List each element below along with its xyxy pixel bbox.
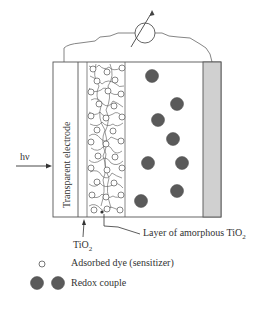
circuit-wire xyxy=(64,33,135,62)
transparent-electrode-label: Transparent electrode xyxy=(61,121,72,208)
legend-dye-icon xyxy=(39,261,45,267)
light-input-label: hν xyxy=(20,151,30,162)
legend-dye-label: Adsorbed dye (sensitizer) xyxy=(71,257,174,268)
amorphous-text: Layer of amorphous TiO xyxy=(143,227,242,238)
tio2-label: TiO2 xyxy=(73,239,92,253)
ammeter-icon xyxy=(135,23,155,43)
tio2-subscript: 2 xyxy=(89,245,93,253)
counter-electrode xyxy=(203,62,221,217)
legend-redox-label: Redox couple xyxy=(71,277,126,288)
legend-redox-icon-1 xyxy=(31,277,44,290)
amorphous-subscript: 2 xyxy=(242,233,246,241)
legend-redox-icon-2 xyxy=(52,277,65,290)
amorphous-layer-label: Layer of amorphous TiO2 xyxy=(143,227,246,241)
tio2-text: TiO xyxy=(73,239,89,250)
